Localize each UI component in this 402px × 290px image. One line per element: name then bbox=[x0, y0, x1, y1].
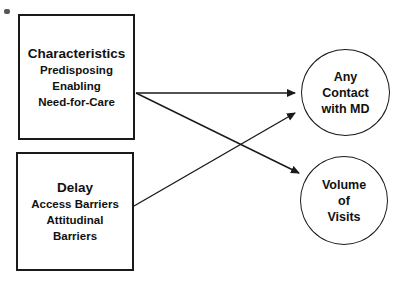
characteristics-title: Characteristics bbox=[28, 45, 126, 62]
delay-title: Delay bbox=[57, 179, 93, 196]
delay-item-access-barriers: Access Barriers bbox=[31, 196, 119, 212]
any-contact-line-1: Any bbox=[334, 69, 358, 85]
node-characteristics: Characteristics Predisposing Enabling Ne… bbox=[18, 14, 135, 140]
scan-artifact bbox=[4, 9, 10, 14]
node-any-contact-with-md: Any Contact with MD bbox=[301, 49, 390, 136]
node-volume-of-visits: Volume of Visits bbox=[300, 156, 388, 245]
characteristics-item-predisposing: Predisposing bbox=[40, 62, 113, 78]
volume-line-2: of bbox=[338, 193, 350, 209]
any-contact-line-2: Contact bbox=[322, 85, 369, 101]
characteristics-item-enabling: Enabling bbox=[52, 78, 101, 94]
volume-line-1: Volume bbox=[322, 177, 366, 193]
volume-line-3: Visits bbox=[327, 209, 360, 225]
arrow-delay-to-any-contact bbox=[134, 113, 295, 206]
node-delay: Delay Access Barriers Attitudinal Barrie… bbox=[16, 152, 134, 271]
any-contact-line-3: with MD bbox=[322, 101, 370, 117]
arrow-characteristics-to-volume bbox=[136, 93, 299, 173]
delay-item-barriers: Barriers bbox=[53, 228, 97, 244]
delay-item-attitudinal: Attitudinal bbox=[47, 212, 104, 228]
characteristics-item-need-for-care: Need-for-Care bbox=[38, 94, 115, 110]
path-model-diagram: Characteristics Predisposing Enabling Ne… bbox=[0, 0, 402, 290]
